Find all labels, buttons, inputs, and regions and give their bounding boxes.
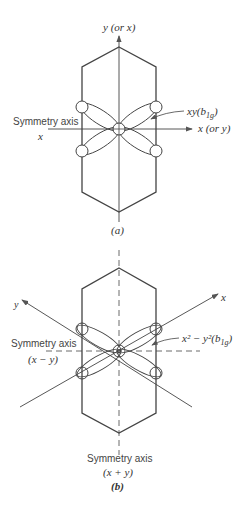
symmetry-axis-label-b-bottom: Symmetry axis — [87, 453, 153, 464]
y-axis-label-b: y — [13, 299, 19, 310]
orbital-label-b: x² − y²(b1g) — [181, 332, 232, 347]
x-axis-label-a: x (or y) — [197, 122, 231, 135]
orbital-diagram: y (or x) x (or y) Symmetry axis x xy(b1g… — [0, 0, 247, 508]
panel-a — [48, 36, 192, 222]
y-axis-label-a: y (or x) — [102, 21, 136, 34]
symmetry-axis-var-b-bottom: (x + y) — [103, 466, 133, 479]
symmetry-axis-var-b-left: (x − y) — [28, 353, 58, 366]
orbital-label-a: xy(b1g) — [186, 105, 218, 120]
symmetry-axis-var-a: x — [37, 130, 43, 142]
caption-b: (b) — [111, 480, 124, 493]
symmetry-axis-label-a: Symmetry axis — [13, 116, 79, 127]
caption-a: (a) — [111, 224, 124, 237]
symmetry-axis-label-b-left: Symmetry axis — [11, 338, 77, 349]
x-axis-label-b: x — [220, 291, 226, 303]
